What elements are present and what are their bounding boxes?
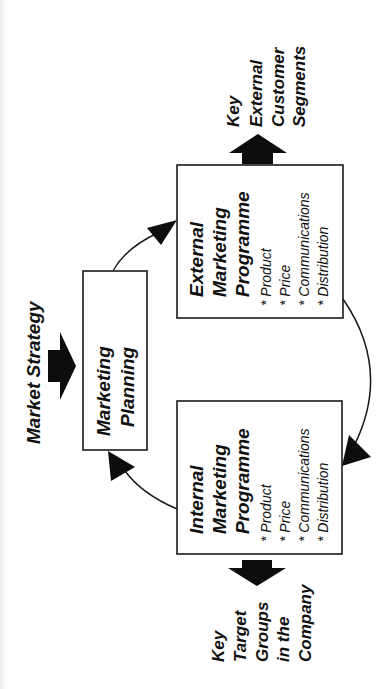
internal-output-label: Key Target Groups in the Company — [209, 583, 315, 662]
external-to-internal-arrow — [342, 299, 371, 466]
market-strategy-arrow-icon — [48, 332, 76, 400]
external-bullet-distribution: * Distribution — [315, 226, 331, 306]
arrowhead-icon — [108, 451, 135, 481]
planning-to-external-curve — [113, 232, 160, 271]
internal-title-line-2: Marketing — [209, 444, 230, 534]
external-title-line-2: Marketing — [209, 207, 230, 297]
internal-to-planning-arrow — [108, 451, 177, 509]
external-output-line-1: Key — [224, 94, 243, 127]
internal-programme-node[interactable]: Internal Marketing Programme * Product *… — [177, 401, 342, 554]
internal-title-line-3: Programme — [232, 428, 253, 534]
external-programme-node[interactable]: External Marketing Programme * Product *… — [177, 165, 343, 318]
internal-bullet-price: * Price — [277, 501, 293, 542]
internal-output-arrow-icon — [228, 560, 286, 586]
external-bullet-product: * Product — [258, 247, 274, 306]
market-strategy-text: Market Strategy — [23, 300, 44, 444]
external-output-line-2: External — [247, 59, 266, 127]
external-title-line-3: Programme — [232, 191, 253, 297]
external-to-internal-curve — [343, 299, 371, 446]
external-output-label: Key External Customer Segments — [224, 46, 309, 127]
internal-output-line-4: in the — [274, 617, 293, 662]
internal-output-line-1: Key — [209, 629, 228, 662]
internal-output-line-5: Company — [296, 583, 315, 662]
internal-bullet-distribution: * Distribution — [315, 462, 331, 542]
planning-title-line-2: Planning — [117, 346, 138, 427]
internal-bullet-product: * Product — [258, 483, 274, 542]
arrowhead-icon — [147, 220, 177, 245]
external-bullet-communications: * Communications — [296, 192, 312, 306]
external-output-line-3: Customer — [269, 46, 288, 127]
marketing-cycle-diagram: Market Strategy Marketing Planning Exter… — [0, 0, 390, 689]
internal-to-planning-curve — [125, 471, 177, 509]
internal-output-line-2: Target — [231, 609, 250, 662]
market-strategy-label: Market Strategy — [23, 300, 44, 444]
internal-bullet-communications: * Communications — [296, 428, 312, 542]
marketing-planning-node[interactable]: Marketing Planning — [83, 271, 147, 450]
external-output-line-4: Segments — [290, 46, 309, 127]
internal-output-line-3: Groups — [253, 602, 272, 662]
external-title-line-1: External — [186, 221, 207, 297]
external-bullet-price: * Price — [277, 265, 293, 306]
internal-title-line-1: Internal — [186, 465, 207, 534]
external-output-arrow-icon — [229, 134, 287, 164]
planning-title-line-1: Marketing — [93, 346, 114, 436]
planning-to-external-arrow — [113, 220, 177, 271]
